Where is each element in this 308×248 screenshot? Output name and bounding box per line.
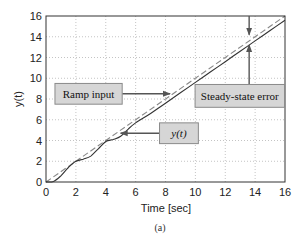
annotations: Ramp inputy(t)Steady-state error xyxy=(55,16,285,144)
x-tick-label: 16 xyxy=(279,186,291,198)
y-tick-label: 12 xyxy=(30,52,42,64)
x-tick-labels: 0246810121416 xyxy=(43,186,291,198)
x-tick-label: 4 xyxy=(103,186,109,198)
y-tick-label: 16 xyxy=(30,10,42,22)
x-tick-label: 8 xyxy=(162,186,168,198)
y-axis-label: y(t) xyxy=(12,91,24,107)
y-tick-label: 14 xyxy=(30,31,42,43)
figure-caption: (a) xyxy=(154,222,165,234)
x-axis-label: Time [sec] xyxy=(141,202,191,214)
y-tick-label: 8 xyxy=(36,93,42,105)
y-tick-label: 0 xyxy=(36,176,42,188)
x-tick-label: 0 xyxy=(43,186,49,198)
y-tick-labels: 0246810121416 xyxy=(30,10,42,188)
yt-label-text: y(t) xyxy=(170,127,187,140)
y-tick-label: 2 xyxy=(36,155,42,167)
ramp-input-label-text: Ramp input xyxy=(63,88,115,100)
steady-state-error-label-text: Steady-state error xyxy=(201,90,279,102)
x-tick-label: 6 xyxy=(133,186,139,198)
x-tick-label: 14 xyxy=(249,186,261,198)
x-tick-label: 10 xyxy=(189,186,201,198)
x-tick-label: 2 xyxy=(73,186,79,198)
ramp-response-chart: 0246810121416 0246810121416 Ramp inputy(… xyxy=(0,0,308,248)
y-tick-label: 6 xyxy=(36,114,42,126)
x-tick-label: 12 xyxy=(219,186,231,198)
y-tick-label: 10 xyxy=(30,72,42,84)
y-tick-label: 4 xyxy=(36,135,42,147)
